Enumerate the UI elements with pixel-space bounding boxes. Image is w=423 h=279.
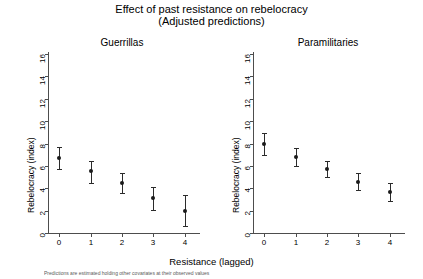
data-point-guerrillas-0: [57, 156, 61, 160]
x-tick-label-paramilitaries-4: 4: [383, 238, 397, 247]
x-tick-label-paramilitaries-2: 2: [320, 238, 334, 247]
y-tick-label-paramilitaries-5: 10: [244, 121, 252, 135]
data-point-paramilitaries-4: [388, 190, 392, 194]
x-tick-paramilitaries-0: [264, 234, 265, 237]
y-tick-label-guerrillas-0: 0: [39, 233, 47, 247]
y-axis-line-paramilitaries: [253, 52, 254, 234]
x-axis-line-paramilitaries: [253, 233, 405, 234]
data-point-paramilitaries-0: [262, 142, 266, 146]
error-bar-cap-guerrillas-1-low: [89, 183, 94, 184]
y-tick-label-paramilitaries-4: 8: [244, 144, 252, 158]
data-point-paramilitaries-1: [294, 155, 298, 159]
error-bar-cap-paramilitaries-2-high: [325, 161, 330, 162]
data-point-paramilitaries-3: [356, 180, 360, 184]
data-point-guerrillas-3: [151, 196, 155, 200]
error-bar-cap-guerrillas-2-high: [120, 173, 125, 174]
x-tick-label-guerrillas-2: 2: [115, 238, 129, 247]
error-bar-cap-guerrillas-0-high: [57, 147, 62, 148]
chart-figure: Effect of past resistance on rebelocracy…: [0, 0, 423, 279]
x-tick-label-guerrillas-4: 4: [178, 238, 192, 247]
error-bar-cap-paramilitaries-4-low: [388, 201, 393, 202]
y-axis-caption-paramilitaries: Rebelocracy (index): [231, 137, 241, 213]
error-bar-cap-guerrillas-3-low: [151, 210, 156, 211]
x-tick-label-guerrillas-1: 1: [84, 238, 98, 247]
error-bar-cap-guerrillas-2-low: [120, 193, 125, 194]
y-tick-label-guerrillas-1: 2: [39, 211, 47, 225]
error-bar-cap-paramilitaries-1-low: [294, 166, 299, 167]
data-point-guerrillas-1: [89, 169, 93, 173]
x-tick-label-guerrillas-0: 0: [52, 238, 66, 247]
x-tick-guerrillas-1: [91, 234, 92, 237]
x-tick-guerrillas-2: [122, 234, 123, 237]
y-tick-label-guerrillas-2: 4: [39, 188, 47, 202]
y-axis-caption-guerrillas: Rebelocracy (index): [26, 137, 36, 213]
x-tick-guerrillas-4: [185, 234, 186, 237]
y-tick-label-guerrillas-5: 10: [39, 121, 47, 135]
error-bar-cap-guerrillas-4-low: [183, 226, 188, 227]
y-tick-label-paramilitaries-1: 2: [244, 211, 252, 225]
y-axis-line-guerrillas: [48, 52, 49, 234]
y-tick-label-paramilitaries-2: 4: [244, 188, 252, 202]
x-tick-label-guerrillas-3: 3: [146, 238, 160, 247]
y-tick-label-paramilitaries-6: 12: [244, 99, 252, 113]
x-tick-paramilitaries-1: [296, 234, 297, 237]
x-tick-paramilitaries-3: [358, 234, 359, 237]
y-tick-label-paramilitaries-3: 6: [244, 166, 252, 180]
x-tick-label-paramilitaries-1: 1: [289, 238, 303, 247]
data-point-paramilitaries-2: [325, 167, 329, 171]
y-tick-label-paramilitaries-8: 16: [244, 54, 252, 68]
error-bar-cap-paramilitaries-0-high: [262, 133, 267, 134]
error-bar-cap-guerrillas-3-high: [151, 187, 156, 188]
panel-title-paramilitaries: Paramilitaries: [253, 37, 403, 49]
y-tick-label-guerrillas-3: 6: [39, 166, 47, 180]
error-bar-cap-guerrillas-4-high: [183, 195, 188, 196]
data-point-guerrillas-2: [120, 181, 124, 185]
chart-title-line2: (Adjusted predictions): [0, 15, 423, 28]
x-axis-line-guerrillas: [48, 233, 200, 234]
error-bar-cap-guerrillas-0-low: [57, 169, 62, 170]
y-tick-label-guerrillas-6: 12: [39, 99, 47, 113]
x-tick-guerrillas-3: [153, 234, 154, 237]
x-tick-label-paramilitaries-0: 0: [257, 238, 271, 247]
x-axis-caption: Resistance (lagged): [0, 256, 423, 267]
y-tick-label-guerrillas-7: 14: [39, 76, 47, 90]
y-tick-label-guerrillas-4: 8: [39, 144, 47, 158]
chart-footnote: Predictions are estimated holding other …: [44, 270, 384, 279]
y-tick-label-paramilitaries-7: 14: [244, 76, 252, 90]
y-tick-label-guerrillas-8: 16: [39, 54, 47, 68]
x-tick-paramilitaries-4: [390, 234, 391, 237]
error-bar-cap-guerrillas-1-high: [89, 161, 94, 162]
data-point-guerrillas-4: [183, 209, 187, 213]
error-bar-cap-paramilitaries-2-low: [325, 177, 330, 178]
error-bar-cap-paramilitaries-4-high: [388, 183, 393, 184]
x-tick-guerrillas-0: [59, 234, 60, 237]
x-tick-paramilitaries-2: [327, 234, 328, 237]
y-tick-label-paramilitaries-0: 0: [244, 233, 252, 247]
panel-title-guerrillas: Guerrillas: [48, 37, 196, 49]
error-bar-cap-paramilitaries-0-low: [262, 155, 267, 156]
error-bar-cap-paramilitaries-3-high: [356, 173, 361, 174]
error-bar-cap-paramilitaries-3-low: [356, 190, 361, 191]
error-bar-cap-paramilitaries-1-high: [294, 148, 299, 149]
x-tick-label-paramilitaries-3: 3: [351, 238, 365, 247]
